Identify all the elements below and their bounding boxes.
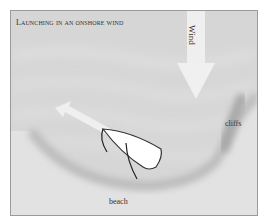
diagram-frame: Launching in an onshore wind Wind cliffs… — [10, 10, 258, 216]
cliffs-label: cliffs — [225, 119, 241, 128]
diagram-canvas — [11, 11, 257, 215]
diagram-title: Launching in an onshore wind — [16, 18, 123, 27]
beach-label: beach — [109, 197, 128, 206]
wind-label: Wind — [187, 25, 197, 45]
